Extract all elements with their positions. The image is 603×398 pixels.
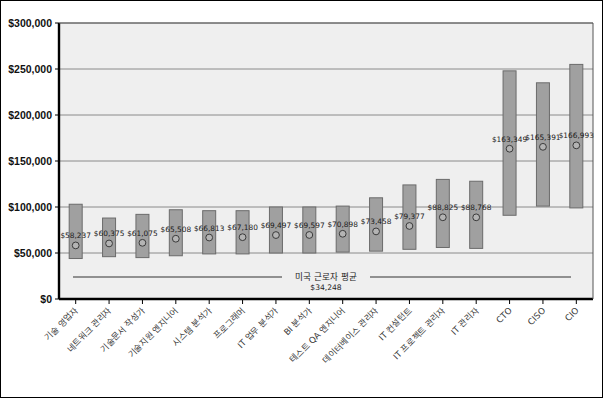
median-marker — [72, 242, 79, 249]
y-axis-tick-label: $200,000 — [8, 109, 52, 121]
median-marker — [106, 240, 113, 247]
median-marker — [139, 239, 146, 246]
median-marker — [473, 214, 480, 221]
median-marker — [540, 143, 547, 150]
median-value-label: $88,768 — [461, 203, 492, 212]
y-axis-tick-label: $50,000 — [14, 247, 52, 259]
median-marker — [306, 232, 313, 239]
median-marker — [239, 234, 246, 241]
y-axis-tick-label: $0 — [40, 293, 52, 305]
median-value-label: $165,391 — [525, 133, 561, 142]
x-axis-category-label: CISO — [526, 305, 548, 327]
y-axis-tick-label: $100,000 — [8, 201, 52, 213]
median-marker — [406, 223, 413, 230]
median-value-label: $66,813 — [194, 224, 225, 233]
x-axis-category-label: CTO — [494, 305, 514, 325]
median-value-label: $69,597 — [294, 221, 325, 230]
median-value-label: $67,180 — [227, 223, 258, 232]
median-marker — [573, 142, 580, 149]
bar-group — [303, 207, 316, 253]
median-marker — [339, 230, 346, 237]
bar-group — [536, 83, 549, 206]
salary-range-bar — [303, 207, 316, 253]
median-value-label: $60,375 — [94, 229, 125, 238]
y-axis-tick-label: $300,000 — [8, 17, 52, 29]
median-marker — [439, 214, 446, 221]
x-axis-category-label: BI 분석가 — [282, 305, 314, 337]
bar-group — [436, 179, 449, 247]
x-axis-category-label: IT 관리자 — [449, 305, 480, 336]
median-marker — [273, 232, 280, 239]
bar-group — [336, 206, 349, 252]
median-marker — [373, 228, 380, 235]
median-value-label: $79,377 — [394, 212, 425, 221]
salary-range-bar — [336, 206, 349, 252]
x-axis-category-label: CIO — [563, 305, 581, 323]
median-value-label: $163,349 — [492, 135, 528, 144]
median-marker — [172, 235, 179, 242]
bar-group — [470, 181, 483, 248]
y-axis-tick-label: $150,000 — [8, 155, 52, 167]
median-value-label: $70,898 — [327, 220, 358, 229]
median-marker — [506, 145, 513, 152]
chart-figure: $0$50,000$100,000$150,000$200,000$250,00… — [0, 0, 603, 398]
x-axis-category-label: 프로그래머 — [212, 305, 247, 340]
median-value-label: $73,458 — [361, 217, 392, 226]
salary-range-bar — [236, 211, 249, 254]
median-value-label: $61,075 — [127, 229, 158, 238]
x-axis-category-label: 데이터베이스 관리자 — [321, 305, 381, 365]
median-value-label: $65,508 — [161, 225, 192, 234]
y-axis-tick-label: $250,000 — [8, 63, 52, 75]
average-annotation-value: $34,248 — [310, 283, 342, 292]
bar-group — [236, 211, 249, 254]
average-annotation-label: 미국 근로자 평균 — [295, 272, 356, 282]
median-value-label: $58,237 — [60, 231, 91, 240]
median-value-label: $166,993 — [559, 131, 595, 140]
median-value-label: $88,825 — [428, 203, 459, 212]
salary-range-chart: $0$50,000$100,000$150,000$200,000$250,00… — [1, 1, 603, 398]
median-marker — [206, 234, 213, 241]
median-value-label: $69,497 — [261, 221, 292, 230]
